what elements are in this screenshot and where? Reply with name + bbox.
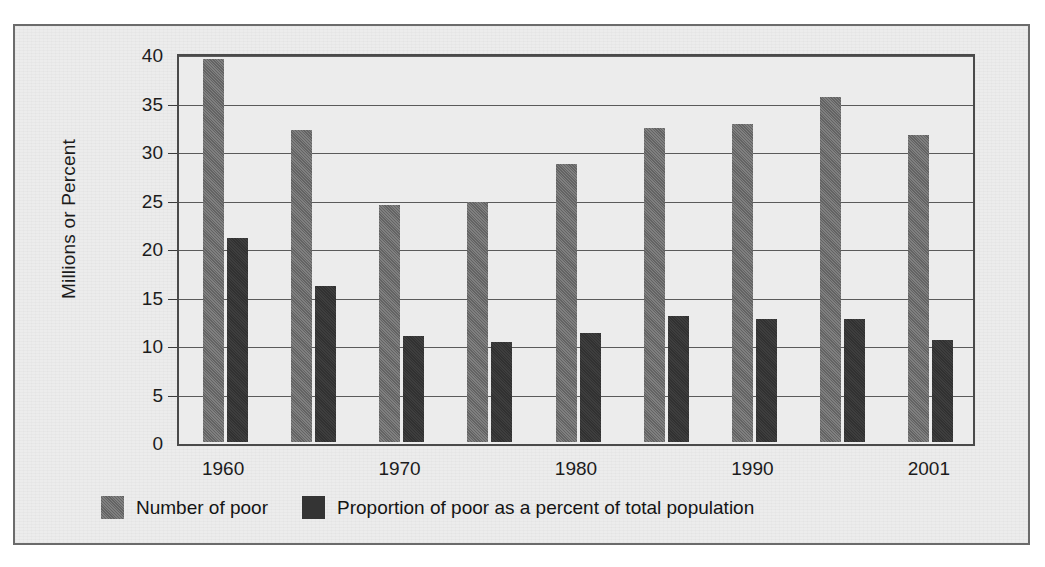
y-tick-label: 5	[152, 385, 163, 407]
y-axis-title: Millions or Percent	[58, 69, 80, 369]
x-tick-label: 1960	[202, 458, 244, 480]
bar	[315, 286, 336, 442]
y-tick-label: 15	[142, 288, 163, 310]
y-tick-label: 10	[142, 336, 163, 358]
x-tick-label: 1970	[378, 458, 420, 480]
plot-area	[177, 54, 975, 446]
bar-group	[732, 58, 777, 442]
bar-group	[379, 58, 424, 442]
bar	[844, 319, 865, 442]
bar-group	[556, 58, 601, 442]
legend-item: Proportion of poor as a percent of total…	[302, 496, 754, 519]
gridline	[179, 56, 973, 57]
y-tick-mark	[168, 105, 177, 106]
chart-legend: Number of poorProportion of poor as a pe…	[101, 496, 788, 519]
bar	[732, 124, 753, 442]
legend-swatch-dark	[302, 496, 325, 519]
y-tick-label: 35	[142, 94, 163, 116]
bar-group	[203, 58, 248, 442]
y-tick-mark	[168, 153, 177, 154]
x-tick-label: 1990	[731, 458, 773, 480]
bar-group	[820, 58, 865, 442]
bar	[580, 333, 601, 442]
x-tick-label: 1980	[555, 458, 597, 480]
legend-label: Proportion of poor as a percent of total…	[337, 497, 754, 519]
bars-layer	[181, 58, 971, 442]
bar-group	[644, 58, 689, 442]
bar	[820, 97, 841, 442]
figure-frame: Millions or Percent 0510152025303540 196…	[13, 24, 1030, 545]
y-tick-label: 30	[142, 142, 163, 164]
chart-screenshot: Millions or Percent 0510152025303540 196…	[0, 0, 1045, 567]
bar	[227, 238, 248, 442]
y-tick-mark	[168, 299, 177, 300]
y-tick-label: 0	[152, 433, 163, 455]
bar	[491, 342, 512, 442]
bar	[644, 128, 665, 442]
bar-group	[908, 58, 953, 442]
y-tick-label: 40	[142, 45, 163, 67]
y-tick-label: 25	[142, 191, 163, 213]
y-tick-mark	[168, 347, 177, 348]
y-tick-label: 20	[142, 239, 163, 261]
bar	[379, 205, 400, 442]
bar-group	[291, 58, 336, 442]
bar	[668, 316, 689, 442]
bar	[908, 135, 929, 442]
x-tick-label: 2001	[908, 458, 950, 480]
y-tick-mark	[168, 250, 177, 251]
bar	[291, 130, 312, 442]
y-tick-mark	[168, 202, 177, 203]
plot-wrapper: 0510152025303540 19601970198019902001	[177, 54, 975, 446]
bar	[932, 340, 953, 442]
legend-swatch-light	[101, 496, 124, 519]
bar	[203, 59, 224, 442]
bar	[403, 336, 424, 442]
bar	[756, 319, 777, 442]
bar-group	[467, 58, 512, 442]
bar	[556, 164, 577, 442]
bar	[467, 202, 488, 442]
y-tick-mark	[168, 396, 177, 397]
legend-label: Number of poor	[136, 497, 268, 519]
legend-item: Number of poor	[101, 496, 268, 519]
